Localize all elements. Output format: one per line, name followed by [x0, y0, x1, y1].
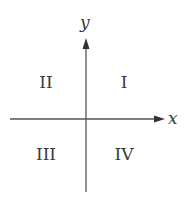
- quadrant-label-iv: IV: [115, 144, 135, 164]
- quadrant-label-iii: III: [36, 144, 56, 164]
- y-axis-arrowhead-icon: [83, 38, 90, 49]
- coordinate-plane-diagram: y x II I III IV: [0, 0, 191, 201]
- x-axis-arrowhead-icon: [154, 116, 165, 123]
- quadrant-label-ii: II: [39, 72, 52, 92]
- x-axis-label: x: [168, 108, 178, 128]
- quadrant-label-i: I: [121, 72, 128, 92]
- y-axis-label: y: [79, 12, 90, 32]
